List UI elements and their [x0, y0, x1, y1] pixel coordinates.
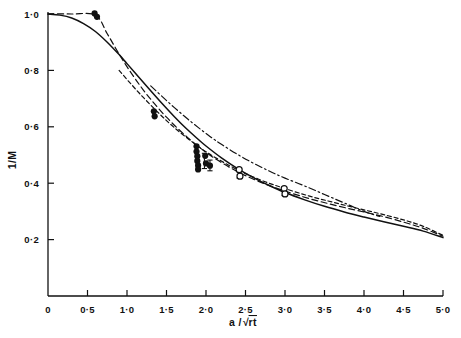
- open-marker: [237, 173, 243, 179]
- data-series-curves: [48, 13, 443, 237]
- filled-marker: [193, 143, 199, 149]
- axis-lines: [48, 12, 443, 296]
- open-marker: [282, 191, 288, 197]
- chart-figure: 00·51·01·52·02·53·03·54·04·55·0 0·20·40·…: [0, 0, 461, 338]
- y-axis-ticks: [48, 14, 54, 240]
- filled-marker: [202, 153, 208, 159]
- x-axis-ticks: [88, 290, 444, 296]
- x-tick-label: 2·5: [238, 304, 253, 315]
- y-tick-label: 0·8: [24, 65, 39, 76]
- x-tick-label: 1·0: [120, 304, 135, 315]
- svg-text:1/M: 1/M: [6, 151, 18, 170]
- x-tick-label: 4·0: [357, 304, 372, 315]
- x-tick-label: 0: [45, 304, 51, 315]
- filled-marker: [94, 14, 100, 20]
- x-tick-label: 3·0: [278, 304, 293, 315]
- x-tick-label: 5·0: [436, 304, 451, 315]
- series-theoretical-curve: [48, 14, 443, 238]
- chart-canvas: 00·51·01·52·02·53·03·54·04·55·0 0·20·40·…: [0, 0, 461, 338]
- series-experimental-curve-lower: [119, 70, 443, 235]
- series-experimental-curve-middle: [48, 13, 443, 236]
- y-tick-label: 1·0: [24, 9, 39, 20]
- x-tick-label: 3·5: [317, 304, 332, 315]
- series-experimental-curve-upper: [151, 86, 380, 217]
- y-tick-label: 0·2: [24, 234, 39, 245]
- y-axis-tick-labels: 0·20·40·60·81·0: [24, 9, 39, 246]
- x-axis-title: a /√rt: [229, 316, 257, 328]
- y-axis-title: 1/M: [6, 151, 18, 170]
- x-tick-label: 2·0: [199, 304, 214, 315]
- y-tick-label: 0·6: [24, 121, 39, 132]
- filled-marker: [152, 113, 158, 119]
- x-tick-label: 1·5: [159, 304, 174, 315]
- filled-marker: [207, 163, 213, 169]
- y-tick-label: 0·4: [24, 178, 39, 189]
- open-marker: [236, 167, 242, 173]
- filled-marker: [195, 166, 201, 172]
- x-tick-label: 0·5: [80, 304, 95, 315]
- x-axis-tick-labels: 00·51·01·52·02·53·03·54·04·55·0: [45, 304, 450, 315]
- x-tick-label: 4·5: [396, 304, 411, 315]
